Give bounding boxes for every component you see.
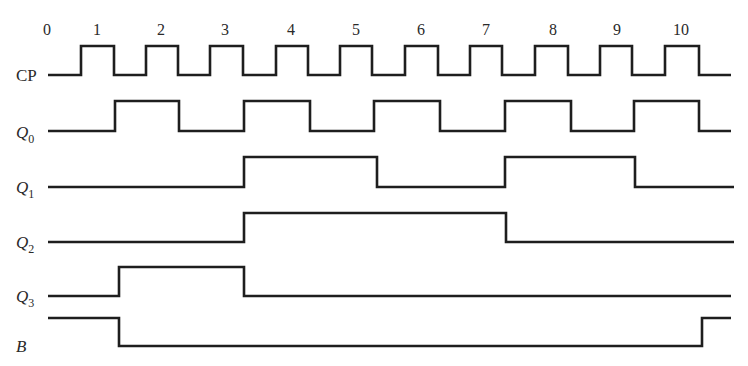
clock-tick-label: 6 bbox=[417, 21, 425, 38]
waveform-q0 bbox=[48, 101, 731, 131]
waveform-b bbox=[48, 318, 731, 346]
clock-tick-label: 4 bbox=[287, 21, 295, 38]
clock-tick-label: 0 bbox=[43, 21, 51, 38]
waveform-cp bbox=[48, 46, 731, 75]
signal-label-b: B bbox=[16, 337, 27, 356]
clock-tick-label: 10 bbox=[673, 21, 689, 38]
clock-tick-label: 9 bbox=[613, 21, 621, 38]
signal-labels: CPQ0Q1Q2Q3B bbox=[16, 66, 37, 356]
clock-tick-label: 8 bbox=[549, 21, 557, 38]
waveform-q1 bbox=[48, 157, 734, 187]
signal-label-q1: Q1 bbox=[16, 178, 34, 201]
clock-tick-label: 1 bbox=[93, 21, 101, 38]
clock-tick-labels: 012345678910 bbox=[43, 21, 689, 38]
timing-diagram: 012345678910 CPQ0Q1Q2Q3B bbox=[0, 0, 748, 366]
clock-tick-label: 3 bbox=[221, 21, 229, 38]
signal-label-q3: Q3 bbox=[16, 287, 34, 310]
clock-tick-label: 2 bbox=[157, 21, 165, 38]
signal-label-q2: Q2 bbox=[16, 233, 34, 256]
signal-label-cp: CP bbox=[16, 66, 37, 85]
waveforms bbox=[48, 46, 734, 346]
signal-label-q0: Q0 bbox=[16, 123, 34, 146]
clock-tick-label: 7 bbox=[482, 21, 490, 38]
clock-tick-label: 5 bbox=[352, 21, 360, 38]
waveform-q3 bbox=[48, 267, 731, 296]
waveform-q2 bbox=[48, 213, 734, 242]
